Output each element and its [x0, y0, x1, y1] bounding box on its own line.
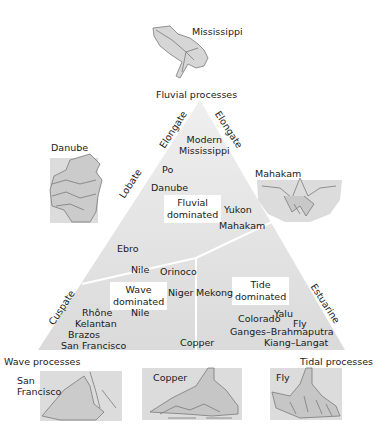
delta-orinoco: Orinoco	[160, 266, 197, 277]
map-label-mahakam: Mahakam	[255, 168, 301, 179]
danube-map	[50, 154, 102, 223]
delta-kelantan: Kelantan	[75, 318, 117, 329]
delta-po: Po	[162, 164, 173, 175]
delta-brazos: Brazos	[68, 329, 100, 340]
tidal-processes-label: Tidal processes	[300, 356, 373, 367]
fluvial-processes-label: Fluvial processes	[156, 89, 237, 100]
delta-yukon: Yukon	[224, 204, 252, 215]
delta-kiang-langat: Kiang–Langat	[264, 337, 328, 348]
delta-colorado: Colorado	[238, 313, 280, 324]
wave-dominated-box: Wave dominated	[110, 282, 167, 310]
wave-processes-label: Wave processes	[4, 356, 80, 367]
delta-mahakam: Mahakam	[219, 220, 265, 231]
tide-dominated-box: Tide dominated	[232, 277, 289, 305]
delta-rhone: Rhône	[82, 307, 112, 318]
mahakam-map	[257, 178, 342, 222]
delta-nile-1: Nile	[131, 264, 149, 275]
map-label-san-francisco: San Francisco	[17, 375, 61, 397]
map-label-mississippi: Mississippi	[192, 26, 243, 37]
delta-modern-mississippi: Modern Mississippi	[179, 134, 230, 156]
map-label-copper: Copper	[153, 372, 187, 383]
fluvial-dominated-box: Fluvial dominated	[164, 195, 221, 223]
delta-copper: Copper	[180, 337, 214, 348]
map-label-fly: Fly	[276, 372, 290, 383]
delta-danube: Danube	[151, 182, 188, 193]
delta-mekong: Mekong	[196, 287, 233, 298]
delta-ganges-brahmaputra: Ganges–Brahmaputra	[230, 326, 334, 337]
delta-niger: Niger	[168, 287, 194, 298]
delta-nile-2: Nile	[131, 307, 149, 318]
delta-san-francisco: San Francisco	[61, 340, 126, 351]
delta-ebro: Ebro	[117, 243, 139, 254]
map-label-danube: Danube	[51, 142, 88, 153]
